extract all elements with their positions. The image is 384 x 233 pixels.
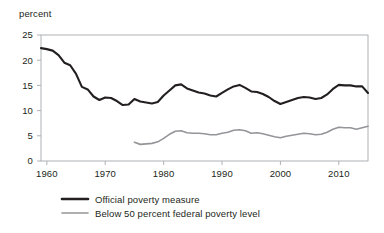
series-line [134, 126, 368, 144]
y-axis-tick-label: 0 [28, 155, 33, 166]
x-axis-tick-label: 2000 [270, 168, 292, 179]
x-axis-tick-label: 1980 [153, 168, 175, 179]
x-axis-tick-label: 2010 [328, 168, 350, 179]
y-axis-tick-group: 0510152025 [22, 29, 41, 166]
x-axis-tick-group: 196019701980199020002010 [36, 161, 350, 179]
x-axis-tick-label: 1990 [211, 168, 233, 179]
chart-svg: 0510152025 196019701980199020002010 Offi… [0, 0, 384, 233]
x-axis-tick-label: 1970 [94, 168, 116, 179]
chart-legend: Official poverty measureBelow 50 percent… [62, 194, 260, 219]
y-axis-tick-label: 25 [22, 29, 33, 40]
legend-item-label: Official poverty measure [95, 194, 200, 205]
y-axis-tick-label: 20 [22, 55, 33, 66]
y-axis-tick-label: 15 [22, 80, 33, 91]
y-axis-tick-label: 10 [22, 105, 33, 116]
x-axis-tick-label: 1960 [36, 168, 58, 179]
data-series-group [41, 48, 368, 144]
series-line [41, 48, 368, 105]
poverty-rate-line-chart: percent 0510152025 196019701980199020002… [0, 0, 384, 233]
y-axis-tick-label: 5 [28, 130, 33, 141]
legend-item-label: Below 50 percent federal poverty level [95, 208, 260, 219]
